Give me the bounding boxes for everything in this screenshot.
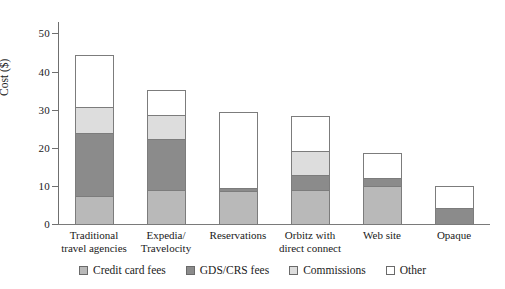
legend-swatch-icon: [186, 266, 195, 275]
y-tick-label: 30: [39, 104, 50, 116]
legend-item[interactable]: Credit card fees: [79, 264, 166, 276]
x-axis-label: Traditionaltravel agencies: [58, 229, 130, 254]
x-axis-label: Reservations: [202, 229, 274, 242]
y-tick-label: 20: [39, 142, 50, 154]
x-axis-label: Expedia/Travelocity: [130, 229, 202, 254]
x-axis-line: [58, 224, 490, 225]
x-axis-label-line: Orbitz with: [274, 229, 346, 242]
y-axis-title: Cost ($): [0, 59, 10, 96]
y-tick-label: 10: [39, 180, 50, 192]
x-axis-label: Web site: [346, 229, 418, 242]
legend-swatch-icon: [79, 266, 88, 275]
bar-segment[interactable]: [75, 107, 114, 135]
legend-item[interactable]: Commissions: [289, 264, 366, 276]
legend-item[interactable]: Other: [386, 264, 426, 276]
stacked-bar-chart: Cost ($) 01020304050 Traditionaltravel a…: [0, 0, 505, 289]
bar-5[interactable]: [363, 22, 402, 224]
y-tick-mark: [52, 224, 58, 225]
bar-segment[interactable]: [363, 186, 402, 224]
bar-segment[interactable]: [291, 116, 330, 152]
bar-segment[interactable]: [291, 175, 330, 190]
bar-segment[interactable]: [75, 133, 114, 197]
bar-segment[interactable]: [147, 115, 186, 140]
bar-segment[interactable]: [219, 191, 258, 224]
x-axis-label-line: Reservations: [202, 229, 274, 242]
x-axis-label-line: Opaque: [418, 229, 490, 242]
bar-segment[interactable]: [363, 153, 402, 180]
bar-segment[interactable]: [75, 196, 114, 224]
bar-4[interactable]: [291, 22, 330, 224]
x-axis-label-line: direct connect: [274, 242, 346, 255]
legend-swatch-icon: [386, 266, 395, 275]
bar-segment[interactable]: [435, 186, 474, 209]
x-axis-label: Orbitz withdirect connect: [274, 229, 346, 254]
bar-segment[interactable]: [291, 190, 330, 224]
bar-segment[interactable]: [435, 208, 474, 224]
x-axis-label-line: travel agencies: [58, 242, 130, 255]
y-tick-label: 50: [39, 27, 50, 39]
x-axis-label: Opaque: [418, 229, 490, 242]
bar-segment[interactable]: [147, 190, 186, 224]
y-tick-label: 40: [39, 66, 50, 78]
legend-label: Credit card fees: [93, 264, 166, 276]
legend-label: Other: [400, 264, 426, 276]
bar-1[interactable]: [75, 22, 114, 224]
legend-label: GDS/CRS fees: [200, 264, 269, 276]
x-axis-label-line: Expedia/: [130, 229, 202, 242]
legend-swatch-icon: [289, 266, 298, 275]
plot-area: [58, 22, 490, 224]
bar-2[interactable]: [147, 22, 186, 224]
bar-segment[interactable]: [75, 55, 114, 107]
bar-segment[interactable]: [219, 112, 258, 188]
bar-3[interactable]: [219, 22, 258, 224]
chart-legend: Credit card feesGDS/CRS feesCommissionsO…: [0, 264, 505, 276]
x-axis-label-line: Travelocity: [130, 242, 202, 255]
y-tick-label: 0: [44, 218, 50, 230]
x-axis-label-line: Traditional: [58, 229, 130, 242]
bar-segment[interactable]: [147, 90, 186, 117]
x-axis-label-line: Web site: [346, 229, 418, 242]
bar-segment[interactable]: [291, 151, 330, 176]
legend-label: Commissions: [303, 264, 366, 276]
bar-6[interactable]: [435, 22, 474, 224]
bar-segment[interactable]: [147, 139, 186, 191]
legend-item[interactable]: GDS/CRS fees: [186, 264, 269, 276]
